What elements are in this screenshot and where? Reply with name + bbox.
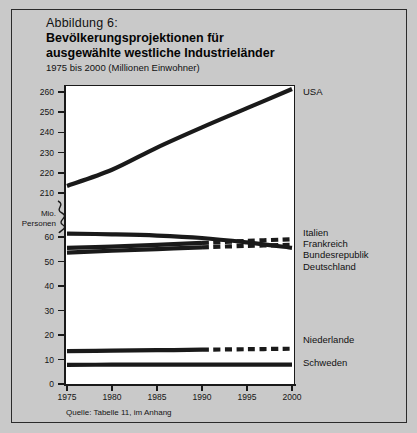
y-tick-250 bbox=[58, 111, 65, 113]
y-tick-label-60: 60 bbox=[8, 232, 54, 242]
y-tick-label-10: 10 bbox=[8, 355, 54, 365]
series-label-line: Deutschland bbox=[303, 261, 369, 273]
y-tick-0 bbox=[58, 383, 65, 385]
series-label-line: USA bbox=[303, 86, 323, 98]
x-tick-1985 bbox=[156, 385, 158, 391]
series-label-line: Italien bbox=[303, 227, 328, 239]
y-tick-60 bbox=[58, 236, 65, 238]
y-axis-title: Mio. Personen bbox=[6, 209, 56, 228]
y-tick-label-260: 260 bbox=[8, 87, 54, 97]
series-label-bundesrepublik-deutschland: BundesrepublikDeutschland bbox=[303, 249, 369, 272]
x-tick-label-2000: 2000 bbox=[272, 392, 312, 402]
y-tick-label-240: 240 bbox=[8, 127, 54, 137]
x-tick-1990 bbox=[201, 385, 203, 391]
y-tick-label-40: 40 bbox=[8, 281, 54, 291]
x-tick-2000 bbox=[291, 385, 293, 391]
figure-container: Abbildung 6: Bevölkerungsprojektionen fü… bbox=[0, 0, 417, 433]
y-tick-20 bbox=[58, 334, 65, 336]
y-tick-40 bbox=[58, 285, 65, 287]
x-tick-label-1975: 1975 bbox=[47, 392, 87, 402]
y-tick-label-30: 30 bbox=[8, 306, 54, 316]
figure-subtitle: 1975 bis 2000 (Millionen Einwohner) bbox=[46, 61, 346, 74]
y-tick-label-0: 0 bbox=[8, 379, 54, 389]
x-tick-label-1980: 1980 bbox=[92, 392, 132, 402]
y-axis-title-l2: Personen bbox=[6, 219, 56, 229]
y-axis-line bbox=[64, 85, 66, 385]
series-label-line: Frankreich bbox=[303, 238, 348, 250]
y-tick-label-250: 250 bbox=[8, 107, 54, 117]
y-tick-label-230: 230 bbox=[8, 148, 54, 158]
y-tick-label-20: 20 bbox=[8, 330, 54, 340]
x-tick-label-1985: 1985 bbox=[137, 392, 177, 402]
y-tick-label-210: 210 bbox=[8, 188, 54, 198]
series-line-niederlande-solid bbox=[67, 350, 202, 351]
series-label-italien: Italien bbox=[303, 227, 328, 239]
figure-title-l2: ausgewählte westliche Industrieländer bbox=[46, 46, 346, 61]
y-tick-220 bbox=[58, 172, 65, 174]
y-tick-label-50: 50 bbox=[8, 257, 54, 267]
y-tick-210 bbox=[58, 192, 65, 194]
source-note: Quelle: Tabelle 11, im Anhang bbox=[66, 408, 172, 417]
plot-area bbox=[66, 85, 295, 384]
y-tick-260 bbox=[58, 91, 65, 93]
series-label-line: Schweden bbox=[303, 357, 347, 369]
figure-number: Abbildung 6: bbox=[46, 16, 346, 31]
x-tick-1995 bbox=[246, 385, 248, 391]
x-tick-1980 bbox=[111, 385, 113, 391]
x-tick-1975 bbox=[66, 385, 68, 391]
y-tick-10 bbox=[58, 359, 65, 361]
x-tick-label-1990: 1990 bbox=[182, 392, 222, 402]
series-line-niederlande-projected bbox=[202, 349, 292, 350]
title-block: Abbildung 6: Bevölkerungsprojektionen fü… bbox=[46, 16, 346, 74]
series-label-schweden: Schweden bbox=[303, 357, 347, 369]
series-label-line: Bundesrepublik bbox=[303, 249, 369, 261]
series-label-line: Niederlande bbox=[303, 334, 354, 346]
y-tick-50 bbox=[58, 261, 65, 263]
figure-title-l1: Bevölkerungsprojektionen für bbox=[46, 31, 346, 46]
axis-break-squiggle bbox=[56, 200, 68, 234]
y-tick-30 bbox=[58, 310, 65, 312]
y-tick-label-220: 220 bbox=[8, 168, 54, 178]
x-axis-line bbox=[64, 384, 296, 386]
series-lines bbox=[66, 86, 295, 385]
series-label-usa: USA bbox=[303, 86, 323, 98]
series-label-frankreich: Frankreich bbox=[303, 238, 348, 250]
y-tick-230 bbox=[58, 152, 65, 154]
x-tick-label-1995: 1995 bbox=[227, 392, 267, 402]
y-tick-240 bbox=[58, 132, 65, 134]
series-label-niederlande: Niederlande bbox=[303, 334, 354, 346]
series-line-usa bbox=[67, 89, 292, 186]
y-axis-title-l1: Mio. bbox=[6, 209, 56, 219]
